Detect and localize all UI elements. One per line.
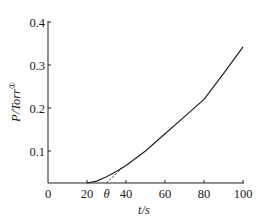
y-tick-label: 0.3 [29, 59, 45, 73]
chart: 020406080100 0.10.20.30.4 θ t/s P/Torr① [0, 0, 274, 222]
x-axis-label: t/s [138, 203, 150, 217]
y-axis-label: P/Torr① [8, 82, 23, 123]
x-tick-label: 60 [159, 187, 172, 201]
y-tick-label: 0.2 [29, 102, 45, 116]
y-tick-label: 0.1 [29, 145, 45, 159]
y-tick-label: 0.4 [29, 16, 45, 30]
x-tick-label: 40 [120, 187, 133, 201]
pressure-curve [87, 47, 243, 183]
x-tick-label: 20 [81, 187, 94, 201]
x-tick-label: 80 [198, 187, 211, 201]
footnote-marker: ① [8, 82, 17, 89]
x-tick-label: 100 [234, 187, 253, 201]
x-tick-label: 0 [45, 187, 51, 201]
theta-annotation: θ [103, 187, 109, 201]
